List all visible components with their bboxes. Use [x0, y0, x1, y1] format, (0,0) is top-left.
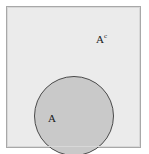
complement-label: Ac [96, 34, 107, 45]
set-a-label: A [48, 113, 56, 124]
set-a-circle [34, 76, 114, 154]
complement-label-superscript: c [104, 32, 107, 40]
complement-label-base: A [96, 33, 104, 45]
universal-set-rectangle: A Ac [6, 6, 141, 148]
venn-diagram-figure: A Ac [0, 0, 149, 154]
